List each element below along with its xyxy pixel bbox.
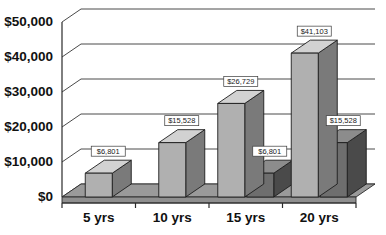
bar	[159, 130, 205, 197]
y-axis-tick-label: $40,000	[4, 49, 53, 64]
data-label: $15,528	[168, 116, 195, 125]
bar-chart: $0$10,000$20,000$30,000$40,000$50,000$6,…	[0, 0, 386, 235]
data-label: $15,528	[330, 116, 357, 125]
x-axis-category-label: 10 yrs	[153, 210, 192, 225]
x-axis-category-label: 15 yrs	[226, 210, 265, 225]
bars	[85, 40, 366, 197]
x-axis-labels: 5 yrs10 yrs15 yrs20 yrs	[83, 210, 339, 225]
data-label: $41,103	[301, 27, 328, 36]
y-axis-tick-label: $30,000	[4, 84, 53, 99]
data-label: $26,729	[227, 77, 254, 86]
x-axis-category-label: 5 yrs	[83, 210, 115, 225]
x-axis-category-label: 20 yrs	[300, 210, 339, 225]
y-axis-tick-label: $50,000	[4, 14, 53, 29]
chart-floor-front	[62, 197, 356, 203]
data-label: $6,801	[97, 147, 120, 156]
data-label: $6,801	[258, 147, 281, 156]
bar	[218, 90, 264, 197]
y-axis-tick-label: $0	[38, 189, 53, 204]
y-axis-tick-label: $10,000	[4, 154, 53, 169]
gridline	[62, 9, 375, 22]
y-axis-tick-label: $20,000	[4, 119, 53, 134]
chart-container: $0$10,000$20,000$30,000$40,000$50,000$6,…	[0, 0, 386, 235]
y-axis-labels: $0$10,000$20,000$30,000$40,000$50,000	[4, 14, 53, 204]
x-axis-ticks	[62, 203, 356, 208]
